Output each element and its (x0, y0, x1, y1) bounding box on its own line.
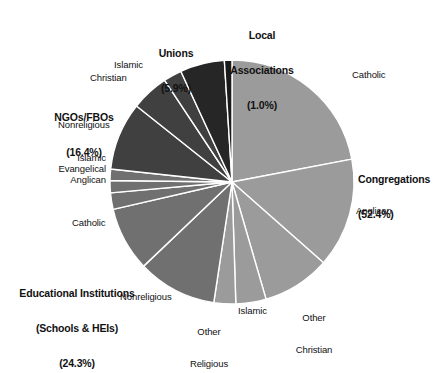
group-label-educational-institutions: Educational Institutions (Schools & HEIs… (2, 264, 152, 373)
group-label-congregations: Congregations (52.4%) (358, 150, 446, 244)
slice-label-congregations-other-religious: Other Religious (184, 306, 234, 373)
group-label-unions: Unions (5.9%) (144, 24, 208, 118)
group-label-congregations-line1: Congregations (358, 174, 446, 186)
slice-label-congregations-other-christian-line2: Christian (286, 345, 342, 356)
slice-label-congregations-other-christian: Other Christian (286, 292, 342, 373)
slice-label-congregations-other-religious-line1: Other (184, 327, 234, 338)
slice-label-congregations-anglican: Anglican (356, 206, 418, 217)
group-label-local-associations-line2: Associations (212, 65, 312, 77)
slice-label-ngos-christian: Christian (90, 73, 156, 84)
slice-label-ngos-islamic: Islamic (114, 60, 174, 71)
slice-label-congregations-catholic: Catholic (352, 70, 414, 81)
slice-label-congregations-other-christian-line1: Other (286, 313, 342, 324)
slice-label-edu-anglican: Anglican (38, 175, 106, 186)
group-label-local-associations-line1: Local (212, 30, 312, 42)
group-label-educational-institutions-percent: (24.3%) (2, 358, 152, 370)
slice-label-edu-nonreligious: Nonreligious (120, 292, 198, 303)
group-label-local-associations-percent: (1.0%) (212, 100, 312, 112)
group-label-educational-institutions-line2: (Schools & HEIs) (2, 323, 152, 335)
slice-label-edu-catholic: Catholic (72, 218, 138, 229)
group-label-unions-percent: (5.9%) (144, 83, 208, 95)
slice-label-ngos-nonreligious: Nonreligious (58, 120, 136, 131)
group-label-unions-line1: Unions (144, 48, 208, 60)
group-label-local-associations: Local Associations (1.0%) (212, 6, 312, 135)
slice-label-congregations-islamic: Islamic (238, 306, 288, 317)
slice-label-congregations-other-religious-line2: Religious (184, 359, 234, 370)
